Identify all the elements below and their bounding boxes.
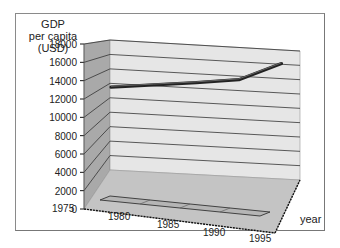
cut-off-caption — [18, 240, 323, 248]
svg-text:18000: 18000 — [49, 39, 77, 50]
y-axis-ticks: 0200040006000800010000120001400016000180… — [49, 39, 84, 215]
svg-text:16000: 16000 — [49, 57, 77, 68]
svg-text:6000: 6000 — [55, 149, 78, 160]
svg-text:10000: 10000 — [49, 112, 77, 123]
svg-text:2000: 2000 — [55, 186, 78, 197]
svg-text:8000: 8000 — [55, 131, 78, 142]
svg-text:4000: 4000 — [55, 167, 78, 178]
x-tick-label: 1980 — [108, 211, 131, 222]
x-tick-label: 1990 — [203, 227, 226, 238]
x-axis-title: year — [300, 213, 322, 225]
svg-text:12000: 12000 — [49, 94, 77, 105]
chart-plot: 0200040006000800010000120001400016000180… — [0, 0, 340, 248]
svg-text:14000: 14000 — [49, 76, 77, 87]
x-tick-label: 1985 — [157, 219, 180, 230]
x-tick-label: 1975 — [52, 203, 75, 214]
